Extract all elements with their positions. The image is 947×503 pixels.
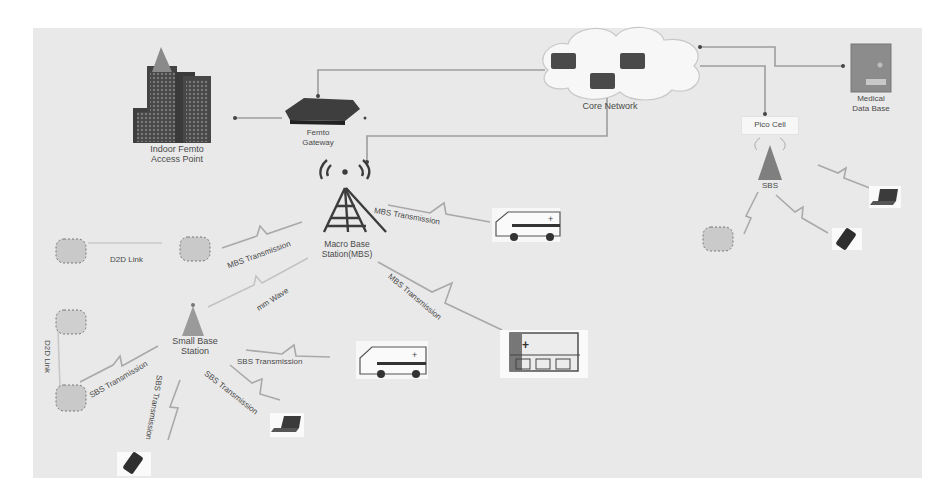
medical-db-label-line1: Medical [841,94,901,104]
core-to-gateway-line [318,70,545,96]
pico-sbs-tower-icon [755,138,785,180]
sbs-transmission-label-ambulance: SBS Transmission [237,357,302,367]
router-icon [590,73,615,89]
indoor-femto-label: Indoor Femto Access Point [137,144,217,164]
medical-db-label: Medical Data Base [841,94,901,114]
pico-sbs-label: SBS [755,181,785,191]
macro-bs-label-line1: Macro Base [312,239,382,249]
building-icon [133,47,211,143]
phone-icon [117,451,151,476]
svg-text:+: + [548,214,553,224]
db-to-core-line [700,47,843,66]
d2d-link-label-left: D2D Link [42,340,52,373]
network-diagram: + + + [0,0,947,503]
antenna-icon [152,47,172,72]
small-bs-label-line2: Station [160,346,230,356]
pico-laptop-link [818,165,875,190]
router-icon [620,53,645,69]
iot-device-icon [703,227,733,251]
d2d-link-left [58,330,60,388]
sbs-ambulance-link [246,345,330,357]
small-bs-label: Small Base Station [160,336,230,356]
d2d-link-label-top: D2D Link [110,255,143,265]
laptop-icon [270,413,304,437]
femto-gateway-label-line1: Femto [288,128,348,138]
ambulance-icon: + [492,208,560,242]
laptop-icon [869,186,901,208]
indoor-femto-label-line1: Indoor Femto [137,144,217,154]
database-server-icon [851,44,891,92]
svg-text:+: + [412,350,417,360]
macro-bs-label: Macro Base Station(MBS) [312,239,382,259]
medical-db-label-line2: Data Base [841,104,901,114]
small-tower-icon [182,303,204,336]
gateway-icon [285,98,360,125]
mbs-hospital-link [378,262,502,330]
femto-gateway-label-line2: Gateway [288,138,348,148]
svg-text:+: + [522,338,529,352]
pico-device-link [744,192,758,234]
small-bs-label-line1: Small Base [160,336,230,346]
macro-tower-icon [320,160,386,232]
iot-device-icon [56,310,86,334]
iot-device-icon [56,385,86,411]
pico-phone-link [776,195,828,233]
ambulance-icon: + [356,341,428,379]
femto-gateway-label: Femto Gateway [288,128,348,148]
router-icon [551,53,576,69]
hospital-icon: + [500,330,588,378]
macro-bs-label-line2: Station(MBS) [312,249,382,259]
core-network-label: Core Network [560,101,660,111]
phone-icon [832,227,862,250]
indoor-femto-label-line2: Access Point [137,154,217,164]
sbs-phone-link [168,380,180,440]
iot-device-icon [56,239,86,263]
mmwave-link [208,258,308,307]
pico-cell-label: Pico Cell [741,120,799,130]
core-to-pico-line [700,66,765,114]
wireless-links [58,165,875,440]
iot-device-icon [180,237,210,261]
core-network-cloud [543,27,700,100]
